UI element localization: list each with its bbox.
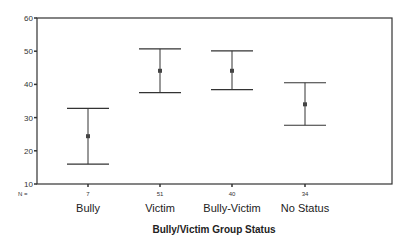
x-axis-ticks: 7Bully51Victim40Bully-Victim34No Status — [76, 184, 330, 214]
category-label: Bully — [76, 202, 100, 214]
mean-marker — [230, 69, 234, 73]
y-tick-label: 50 — [24, 47, 33, 56]
n-count-label: 40 — [229, 191, 236, 197]
category-label: Victim — [145, 202, 175, 214]
y-tick-label: 20 — [24, 147, 33, 156]
x-axis-title: Bully/Victim Group Status — [152, 224, 276, 235]
y-tick-label: 10 — [24, 180, 33, 189]
category-label: No Status — [281, 202, 330, 214]
n-prefix-label: N = — [18, 191, 28, 197]
n-count-label: 7 — [86, 191, 90, 197]
y-tick-label: 40 — [24, 80, 33, 89]
error-bar-chart: 102030405060 7Bully51Victim40Bully-Victi… — [0, 0, 412, 246]
error-bars — [67, 49, 326, 164]
error-bar-group — [139, 49, 181, 93]
error-bar-group — [211, 51, 253, 90]
category-label: Bully-Victim — [203, 202, 260, 214]
mean-marker — [86, 134, 90, 138]
y-tick-label: 30 — [24, 114, 33, 123]
plot-frame — [37, 18, 392, 184]
mean-marker — [158, 69, 162, 73]
n-count-label: 34 — [302, 191, 309, 197]
n-count-label: 51 — [157, 191, 164, 197]
y-axis-ticks: 102030405060 — [24, 14, 37, 189]
error-bar-group — [284, 83, 326, 125]
mean-marker — [303, 102, 307, 106]
error-bar-group — [67, 108, 109, 164]
y-tick-label: 60 — [24, 14, 33, 23]
